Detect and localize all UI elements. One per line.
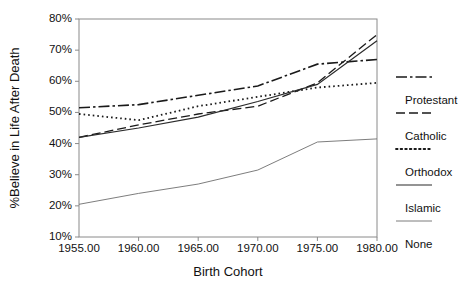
legend-label-none: None bbox=[405, 238, 433, 250]
y-tick-label: 50% bbox=[49, 105, 72, 117]
x-tick-label: 1980.00 bbox=[356, 242, 398, 254]
y-tick-label: 40% bbox=[49, 137, 72, 149]
x-axis-title: Birth Cohort bbox=[193, 264, 263, 279]
y-axis-title: %Believe in Life After Death bbox=[7, 47, 22, 208]
legend-label-orthodox: Orthodox bbox=[405, 166, 453, 178]
y-tick-label: 10% bbox=[49, 230, 72, 242]
y-tick-label: 70% bbox=[49, 43, 72, 55]
x-tick-label: 1970.00 bbox=[237, 242, 279, 254]
y-tick-label: 80% bbox=[49, 12, 72, 24]
x-tick-label: 1965.00 bbox=[177, 242, 219, 254]
x-tick-label: 1975.00 bbox=[297, 242, 339, 254]
y-tick-label: 60% bbox=[49, 74, 72, 86]
y-tick-label: 30% bbox=[49, 168, 72, 180]
legend-label-catholic: Catholic bbox=[405, 130, 447, 142]
x-tick-label: 1960.00 bbox=[118, 242, 160, 254]
chart-container: 10%20%30%40%50%60%70%80% 1955.001960.001… bbox=[0, 0, 476, 291]
legend-label-protestant: Protestant bbox=[405, 94, 458, 106]
x-tick-label: 1955.00 bbox=[58, 242, 100, 254]
legend-label-islamic: Islamic bbox=[405, 202, 441, 214]
life-after-death-line-chart: 10%20%30%40%50%60%70%80% 1955.001960.001… bbox=[0, 0, 476, 291]
y-tick-label: 20% bbox=[49, 199, 72, 211]
